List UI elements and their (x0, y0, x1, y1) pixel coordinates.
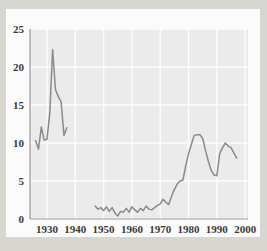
x-tick-label: 1940 (64, 223, 87, 235)
x-axis-tick-labels: 19301940195019601970198019902000 (36, 223, 257, 235)
x-tick-label: 1990 (206, 223, 229, 235)
y-tick-label: 10 (13, 137, 25, 149)
y-tick-label: 20 (13, 61, 25, 73)
y-tick-label: 15 (13, 99, 25, 111)
x-tick-label: 1960 (121, 223, 144, 235)
x-tick-label: 1930 (36, 223, 59, 235)
x-tick-label: 2000 (234, 223, 257, 235)
y-tick-label: 5 (19, 175, 25, 187)
x-tick-label: 1970 (149, 223, 172, 235)
chart-page: 0510152025 19301940195019601970198019902… (0, 0, 267, 251)
x-tick-label: 1980 (178, 223, 201, 235)
y-axis-tick-labels: 0510152025 (13, 23, 25, 225)
y-tick-label: 25 (13, 23, 25, 35)
x-tick-label: 1950 (93, 223, 116, 235)
y-tick-label: 0 (19, 213, 25, 225)
line-chart-figure: 0510152025 19301940195019601970198019902… (0, 0, 267, 251)
